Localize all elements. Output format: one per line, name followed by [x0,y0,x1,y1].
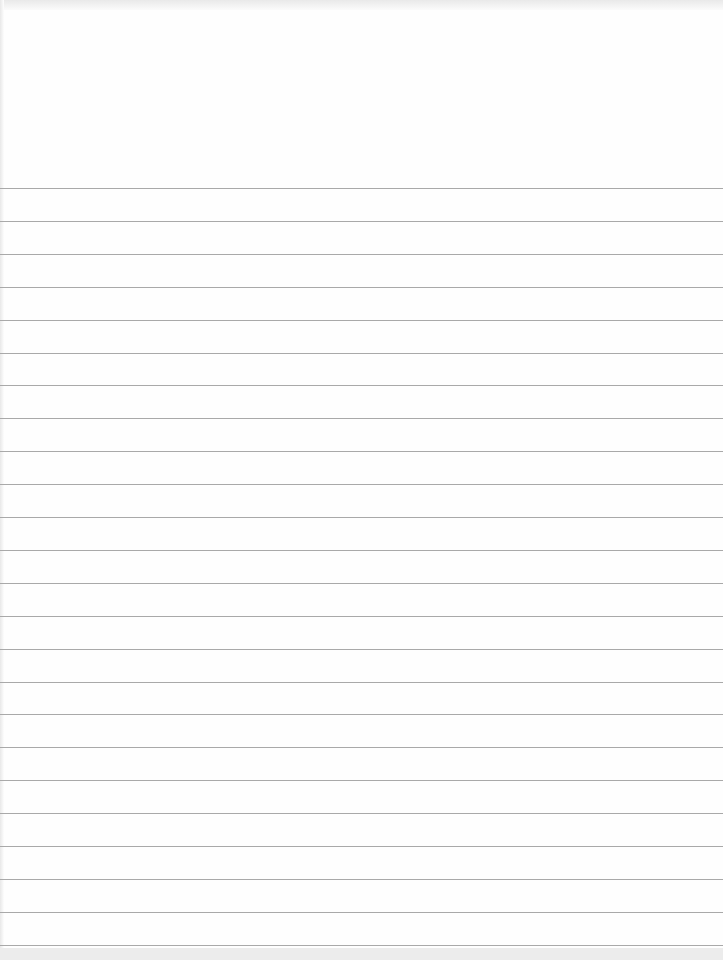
ruled-line [0,254,723,255]
ruled-line [0,747,723,748]
ruled-line [0,188,723,189]
ruled-line [0,714,723,715]
ruled-line [0,780,723,781]
scan-top-edge [0,0,723,10]
ruled-line [0,879,723,880]
ruled-line [0,418,723,419]
lined-paper-page [0,0,723,960]
ruled-line [0,550,723,551]
ruled-line [0,484,723,485]
scan-left-edge [0,0,4,960]
ruled-line [0,451,723,452]
ruled-line [0,813,723,814]
ruled-line [0,385,723,386]
ruled-line [0,221,723,222]
ruled-line [0,649,723,650]
ruled-line [0,353,723,354]
ruled-line [0,912,723,913]
ruled-line [0,682,723,683]
ruled-line [0,945,723,946]
ruled-line [0,287,723,288]
ruled-line [0,517,723,518]
ruled-line [0,616,723,617]
ruled-line [0,846,723,847]
ruled-line [0,320,723,321]
ruled-line [0,583,723,584]
scan-bottom-edge [0,948,723,960]
